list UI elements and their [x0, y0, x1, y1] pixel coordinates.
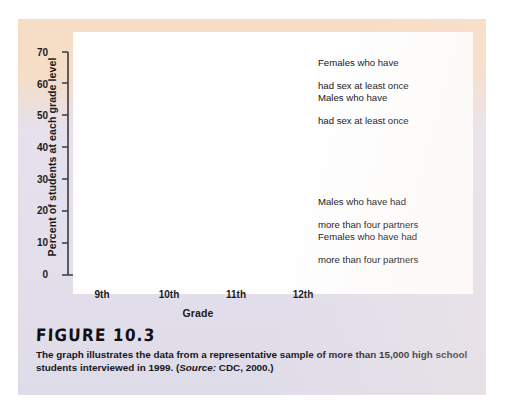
y-tick-10: 10 — [24, 237, 48, 248]
y-tick-20: 20 — [24, 205, 48, 216]
caption-source-label: Source: — [179, 362, 216, 373]
annotation-males-sex-once: Males who have had sex at least once — [318, 80, 409, 138]
figure-card: Percent of students at each grade level … — [18, 19, 486, 395]
caption-text-part2: CDC, 2000.) — [216, 362, 274, 373]
x-tick-9th: 9th — [79, 289, 125, 300]
y-tick-40: 40 — [24, 142, 48, 153]
annotation-males-sex-once-line1: Males who have — [318, 92, 409, 104]
figure-title: FIGURE 10.3 — [36, 325, 469, 345]
x-tick-10th: 10th — [146, 289, 192, 300]
y-tick-70: 70 — [24, 47, 48, 58]
annotation-males-four-partners-line1: Males who have had — [318, 196, 418, 208]
y-tick-0: 0 — [24, 269, 48, 280]
x-tick-11th: 11th — [213, 289, 259, 300]
y-tick-marks — [62, 52, 68, 275]
figure-container: Percent of students at each grade level … — [0, 0, 509, 413]
x-tick-12th: 12th — [280, 289, 326, 300]
y-tick-30: 30 — [24, 174, 48, 185]
annotation-males-sex-once-line2: had sex at least once — [318, 115, 409, 127]
annotation-females-four-partners: Females who have had more than four part… — [318, 219, 418, 277]
chart-area: Percent of students at each grade level … — [18, 19, 486, 319]
caption-block: FIGURE 10.3 The graph illustrates the da… — [36, 325, 468, 375]
annotation-females-sex-once-line1: Females who have — [318, 57, 409, 69]
x-axis-title: Grade — [138, 307, 258, 319]
annotation-females-four-partners-line1: Females who have had — [318, 231, 418, 243]
y-tick-60: 60 — [24, 79, 48, 90]
annotation-females-four-partners-line2: more than four partners — [318, 254, 418, 266]
figure-caption: The graph illustrates the data from a re… — [36, 348, 468, 375]
y-tick-50: 50 — [24, 110, 48, 121]
